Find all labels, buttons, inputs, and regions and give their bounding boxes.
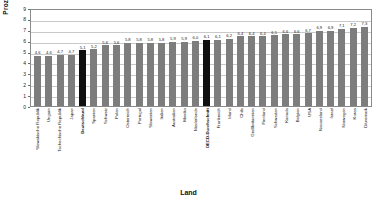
category-label: Schweiz	[102, 108, 107, 124]
category-slot: Belgien	[292, 108, 303, 184]
category-slot: Schweden	[269, 108, 280, 184]
bar: 5,8	[136, 43, 143, 106]
bar: 6,4	[259, 36, 266, 106]
category-label: Niederlande	[193, 108, 198, 131]
category-slot: Polen	[110, 108, 121, 184]
category-label: Portugal	[136, 108, 141, 124]
bar-value-label: 5,8	[159, 37, 165, 42]
category-slot: Japan	[65, 108, 76, 184]
category-label: Kanada	[283, 108, 288, 123]
bar-slot: 5,8	[156, 10, 167, 106]
bar-slot: 6,6	[280, 10, 291, 106]
y-tick-label: 9	[14, 7, 26, 12]
bar: 5,1	[79, 50, 86, 106]
bar-value-label: 6,9	[316, 25, 322, 30]
bar: 4,6	[45, 56, 52, 106]
category-label: Italien	[159, 108, 164, 119]
y-tick-mark	[28, 9, 30, 10]
category-slot: Deutschland	[76, 108, 87, 184]
bar-slot: 6,2	[224, 10, 235, 106]
bar-slot: 5,9	[167, 10, 178, 106]
bar-value-label: 5,9	[170, 36, 176, 41]
bar-slot: 5,1	[77, 10, 88, 106]
bar-value-label: 4,7	[57, 49, 63, 54]
category-slot: USA	[303, 108, 314, 184]
category-slot: Slowakische Republik	[31, 108, 42, 184]
bar-slot: 6,7	[302, 10, 313, 106]
bar-value-label: 7,1	[339, 23, 345, 28]
bar-series: 4,64,64,74,75,15,25,65,65,85,85,85,85,95…	[31, 10, 371, 106]
y-tick-label: 0	[14, 105, 26, 110]
category-slot: Mexiko	[178, 108, 189, 184]
bar: 5,6	[102, 45, 109, 106]
category-slot: Portugal	[133, 108, 144, 184]
category-slot: Korea	[348, 108, 359, 184]
category-slot: Österreich	[122, 108, 133, 184]
category-label: Finnland	[261, 108, 266, 124]
bar: 6,2	[226, 39, 233, 107]
bar-value-label: 6,5	[271, 30, 277, 35]
bar-slot: 7,3	[359, 10, 370, 106]
category-slot: Schweiz	[99, 108, 110, 184]
bar: 6,6	[282, 34, 289, 106]
bar: 6,9	[316, 31, 323, 106]
category-slot: Großbritannien	[246, 108, 257, 184]
category-slot: Tschechische Republik	[54, 108, 65, 184]
y-tick-mark	[28, 31, 30, 32]
category-slot: Neuseeland	[314, 108, 325, 184]
bar-slot: 4,6	[32, 10, 43, 106]
bar: 5,9	[181, 42, 188, 106]
bar: 7,3	[361, 27, 368, 106]
category-slot: Spanien	[88, 108, 99, 184]
y-tick-label: 1	[14, 94, 26, 99]
bar: 4,6	[34, 56, 41, 106]
category-slot: Dänemark	[360, 108, 371, 184]
bar-value-label: 6,4	[260, 31, 266, 36]
bar-value-label: 6,1	[215, 34, 221, 39]
category-label: Slowakische Republik	[34, 108, 39, 150]
category-slot: Chile	[235, 108, 246, 184]
bar: 6,6	[293, 34, 300, 106]
y-tick-label: 4	[14, 61, 26, 66]
x-axis-category-labels: Slowakische RepublikUngarnTschechische R…	[30, 108, 372, 184]
category-label: Schweden	[272, 108, 277, 128]
category-label: Polen	[113, 108, 118, 119]
category-label: Frankreich	[215, 108, 220, 128]
y-tick-mark	[28, 63, 30, 64]
bar-value-label: 5,8	[125, 37, 131, 42]
category-label: Mexiko	[181, 108, 186, 122]
y-tick-label: 3	[14, 72, 26, 77]
bar-value-label: 5,1	[80, 45, 86, 50]
category-label: Spanien	[91, 108, 96, 124]
bar-slot: 5,8	[122, 10, 133, 106]
chart-container: Prozent 4,64,64,74,75,15,25,65,65,85,85,…	[0, 0, 377, 205]
bar-value-label: 5,9	[181, 36, 187, 41]
y-tick-label: 6	[14, 39, 26, 44]
category-label: Slowenien	[147, 108, 152, 128]
y-tick-mark	[28, 85, 30, 86]
bar-value-label: 5,8	[136, 37, 142, 42]
bar-slot: 6,6	[291, 10, 302, 106]
bar: 5,6	[113, 45, 120, 106]
category-label: Belgien	[295, 108, 300, 122]
category-label: Japan	[68, 108, 73, 120]
bar-slot: 5,8	[145, 10, 156, 106]
bar: 5,8	[124, 43, 131, 106]
bar: 6,4	[248, 36, 255, 106]
bar-value-label: 4,6	[46, 50, 52, 55]
category-slot: Finnland	[258, 108, 269, 184]
category-label: Israel	[329, 108, 334, 119]
bar: 6,7	[305, 33, 312, 106]
bar-value-label: 6,4	[238, 31, 244, 36]
category-label: Norwegen	[340, 108, 345, 128]
category-label: Neuseeland	[317, 108, 322, 131]
category-slot: Frankreich	[212, 108, 223, 184]
bar-slot: 4,7	[55, 10, 66, 106]
bar-value-label: 6,4	[249, 31, 255, 36]
bar-slot: 6,4	[235, 10, 246, 106]
bar-slot: 7,2	[347, 10, 358, 106]
bar-value-label: 6,7	[305, 28, 311, 33]
category-label: Tschechische Republik	[57, 108, 62, 152]
bar-value-label: 5,8	[147, 37, 153, 42]
category-slot: Niederlande	[190, 108, 201, 184]
